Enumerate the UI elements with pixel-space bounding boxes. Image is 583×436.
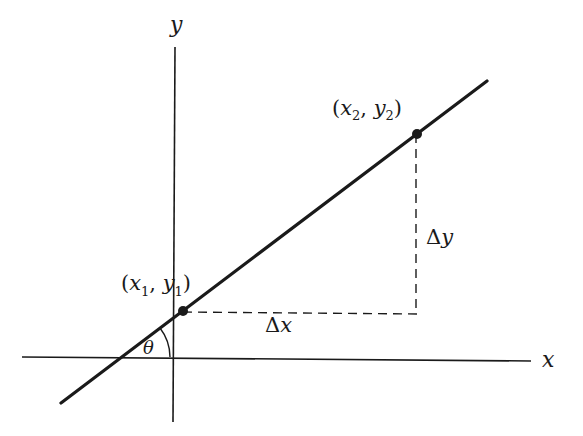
point-2-x-subscript: 2 — [352, 108, 360, 123]
point-1-close-paren: ) — [183, 271, 191, 295]
point-1-separator: , — [149, 271, 162, 295]
angle-arc — [160, 328, 170, 357]
delta-y-delta-symbol: Δ — [426, 225, 441, 249]
point-2-open-paren: ( — [332, 96, 340, 120]
delta-x-label: Δx — [265, 313, 292, 337]
point-1-x-subscript: 1 — [141, 284, 149, 299]
point-1-label: (x1, y1) — [121, 271, 191, 299]
y-axis-label: y — [169, 12, 183, 37]
point-2-dot — [412, 129, 422, 139]
delta-y-label: Δy — [426, 225, 454, 249]
point-2-separator: , — [360, 96, 373, 120]
point-1-dot — [178, 306, 188, 316]
y-axis — [173, 47, 175, 422]
point-1-y-subscript: 1 — [175, 284, 183, 299]
point-2-label: (x2, y2) — [332, 96, 402, 123]
x-axis-label: x — [542, 347, 555, 372]
point-2-x-symbol: x — [340, 96, 352, 120]
point-2-close-paren: ) — [394, 96, 402, 120]
point-2-y-subscript: 2 — [386, 108, 394, 123]
slope-diagram: x y θ (x1, y1) (x2, y2) Δx Δy — [0, 0, 583, 436]
delta-y-variable: y — [440, 225, 454, 249]
delta-x-variable: x — [280, 313, 292, 337]
sloped-line — [61, 81, 487, 403]
delta-x-delta-symbol: Δ — [265, 313, 280, 337]
x-axis — [22, 357, 531, 361]
point-1-x-symbol: x — [129, 271, 141, 295]
delta-x-dashed-line — [183, 312, 417, 314]
point-1-open-paren: ( — [121, 271, 129, 295]
